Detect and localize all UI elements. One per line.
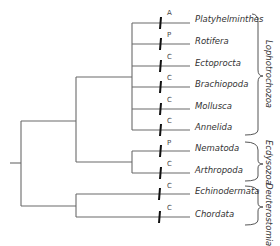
character-label: P [167,31,171,39]
taxon-label: Arthropoda [195,165,243,175]
taxon-label: Nematoda [195,143,239,153]
taxon-label: Annelida [195,122,232,132]
taxon-label: Platyhelminthes [195,14,263,24]
character-label: C [167,160,172,168]
character-label: P [167,139,171,147]
clade-label-deuterostomia: Deuterostomia [264,183,274,246]
clade-label-lophotrochozoa: Lophotrochozoa [264,40,274,108]
character-label: C [167,117,172,125]
taxon-label: Chordata [195,209,234,219]
character-label: C [167,96,172,104]
character-label: C [167,204,172,212]
taxon-label: Rotifera [195,36,229,46]
character-label: A [167,9,172,17]
character-label: C [167,53,172,61]
clade-label-ecdysozoa: Ecdysozoa [264,140,274,185]
taxon-label: Echinodermata [195,186,260,196]
taxon-label: Ectoprocta [195,58,241,68]
taxon-label: Brachiopoda [195,79,248,89]
character-label: C [167,74,172,82]
taxon-label: Mollusca [195,101,232,111]
character-label: C [167,182,172,190]
